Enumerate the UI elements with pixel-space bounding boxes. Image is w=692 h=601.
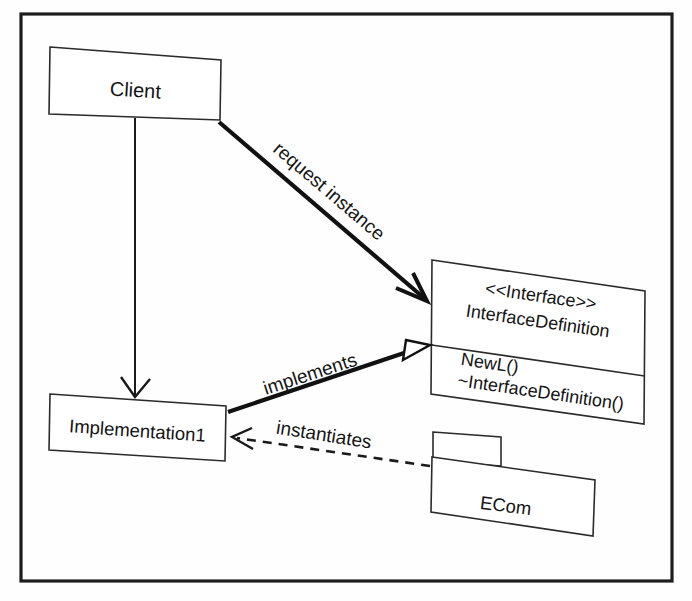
request-instance-line (219, 122, 424, 298)
edge-request-instance[interactable]: request instance (219, 122, 427, 301)
client-label: Client (109, 77, 162, 102)
node-ecom-package[interactable]: ECom (431, 432, 595, 536)
edge-client-to-implementation[interactable] (121, 118, 150, 397)
edge-instantiates[interactable]: instantiates (232, 417, 430, 466)
node-client[interactable]: Client (49, 47, 221, 120)
diagram-canvas: Client Implementation1 <<Interface>> Int… (0, 0, 692, 601)
node-implementation1[interactable]: Implementation1 (49, 394, 226, 461)
node-interface-definition[interactable]: <<Interface>> InterfaceDefinition NewL()… (431, 260, 645, 424)
instantiates-label: instantiates (275, 417, 373, 453)
uml-diagram: Client Implementation1 <<Interface>> Int… (0, 0, 692, 601)
instantiates-arrowhead (232, 428, 253, 449)
request-instance-label: request instance (269, 138, 389, 245)
edge-implements[interactable]: implements (228, 340, 430, 412)
implements-arrowhead (403, 340, 430, 360)
